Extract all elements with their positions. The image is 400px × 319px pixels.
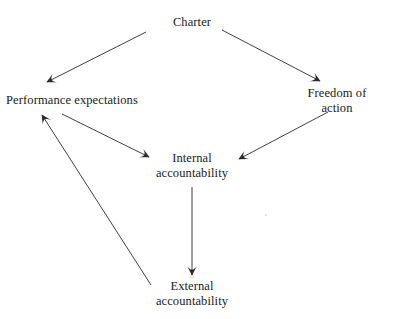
node-external-accountability: External accountability bbox=[156, 279, 228, 308]
diagram-canvas: Charter Performance expectations Freedom… bbox=[0, 0, 400, 319]
node-internal-accountability: Internal accountability bbox=[156, 151, 228, 180]
edge-external-to-performance bbox=[42, 115, 151, 285]
speck-right bbox=[265, 214, 267, 216]
edge-performance-to-internal bbox=[62, 114, 149, 157]
edge-charter-to-performance bbox=[47, 32, 146, 82]
edge-charter-to-freedom bbox=[222, 30, 320, 81]
node-performance-expectations: Performance expectations bbox=[6, 93, 138, 108]
node-freedom-of-action: Freedom of action bbox=[306, 86, 369, 115]
node-charter: Charter bbox=[173, 15, 211, 30]
edge-freedom-to-internal bbox=[239, 112, 328, 159]
